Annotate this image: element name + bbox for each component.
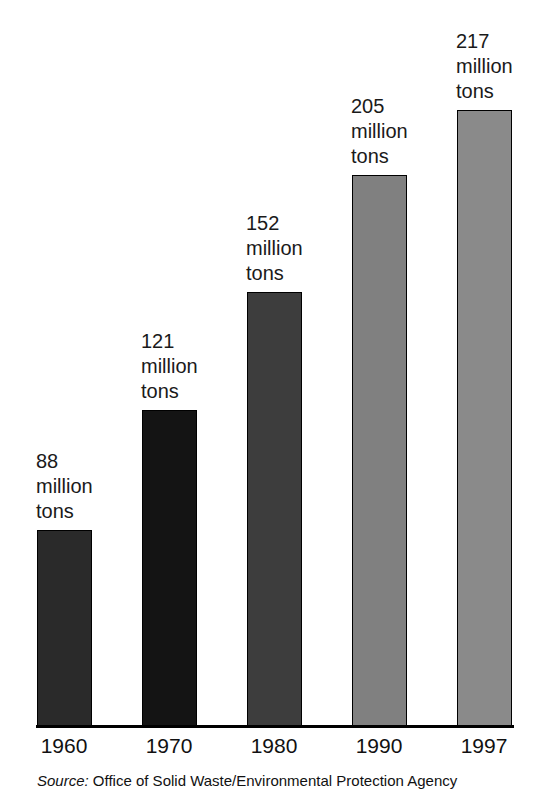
bar-group-1960: 88 million tons xyxy=(37,449,92,726)
bar-value-label-1990: 205 million tons xyxy=(351,94,408,169)
x-axis-baseline xyxy=(36,725,514,728)
x-tick-label-1990: 1990 xyxy=(339,733,419,759)
bar-value-label-1997: 217 million tons xyxy=(456,29,513,104)
bar-value-label-1980: 152 million tons xyxy=(246,211,303,286)
x-tick-label-1970: 1970 xyxy=(129,733,209,759)
bar-chart-figure: 88 million tons 121 million tons 152 mil… xyxy=(0,0,540,809)
x-tick-label-1980: 1980 xyxy=(234,733,314,759)
bar-group-1997: 217 million tons xyxy=(457,29,512,726)
bar-rect-1980 xyxy=(247,292,302,726)
bar-rect-1990 xyxy=(352,175,407,726)
source-label: Source: xyxy=(37,772,89,789)
source-footnote: Source: Office of Solid Waste/Environmen… xyxy=(37,771,457,790)
bar-rect-1997 xyxy=(457,110,512,726)
x-tick-label-1997: 1997 xyxy=(444,733,524,759)
bar-group-1980: 152 million tons xyxy=(247,211,302,726)
bar-group-1970: 121 million tons xyxy=(142,329,197,726)
bar-value-label-1960: 88 million tons xyxy=(36,449,93,524)
chart-plot-area: 88 million tons 121 million tons 152 mil… xyxy=(0,0,540,726)
bar-rect-1970 xyxy=(142,410,197,726)
source-text: Office of Solid Waste/Environmental Prot… xyxy=(89,772,458,789)
bar-value-label-1970: 121 million tons xyxy=(141,329,198,404)
x-tick-label-1960: 1960 xyxy=(24,733,104,759)
bar-rect-1960 xyxy=(37,530,92,726)
bar-group-1990: 205 million tons xyxy=(352,94,407,726)
x-axis-tick-labels: 1960 1970 1980 1990 1997 xyxy=(0,733,540,765)
